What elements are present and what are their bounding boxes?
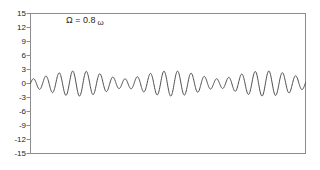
y-tick-label: 6 [0,51,26,61]
plot-border [31,14,306,154]
frequency-annotation: Ω = 0.8ω [66,15,104,25]
omega-symbol: ω [98,18,104,27]
y-tick-label: 3 [0,65,26,75]
annotation-prefix: Ω = 0.8 [66,15,96,25]
plot-svg [0,0,320,170]
y-tick-label: 15 [0,9,26,19]
y-tick-label: -12 [0,135,26,145]
y-tick-label: 9 [0,37,26,47]
y-tick-label: 12 [0,23,26,33]
chart-figure: 15129630-3-6-9-12-15 Ω = 0.8ω [0,0,320,170]
y-tick-label: -9 [0,121,26,131]
y-axis-tick-marks [27,14,31,154]
y-tick-label: 0 [0,79,26,89]
y-tick-label: -15 [0,149,26,159]
y-tick-label: -6 [0,107,26,117]
y-tick-label: -3 [0,93,26,103]
waveform-line [31,71,306,96]
